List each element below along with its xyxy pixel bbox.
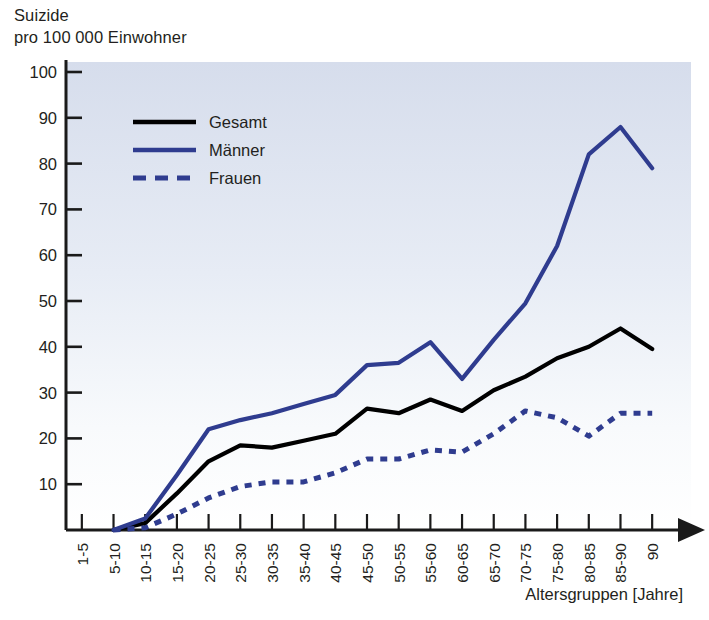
x-tick-label-70-75: 70-75 [517, 543, 534, 583]
y-tick-label-60: 60 [39, 246, 57, 264]
suicide-rate-line-chart: Suizide pro 100 000 Einwohner 1020304050… [0, 0, 709, 620]
x-tick-label-90: 90 [644, 543, 661, 561]
y-tick-label-50: 50 [39, 292, 57, 310]
x-tick-label-80-85: 80-85 [581, 543, 598, 583]
plot-background [66, 62, 691, 530]
x-tick-label-65-70: 65-70 [486, 543, 503, 583]
x-tick-label-15-20: 15-20 [169, 543, 186, 583]
x-tick-label-40-45: 40-45 [327, 543, 344, 583]
y-tick-label-70: 70 [39, 200, 57, 218]
y-tick-label-20: 20 [39, 429, 57, 447]
y-axis-tick-labels: 102030405060708090100 [29, 63, 57, 493]
y-tick-label-30: 30 [39, 384, 57, 402]
x-axis-caption: Altersgruppen [Jahre] [525, 585, 683, 603]
x-tick-label-25-30: 25-30 [232, 543, 249, 583]
legend-label-mnner: Männer [209, 141, 265, 159]
x-tick-label-50-55: 50-55 [391, 543, 408, 583]
x-tick-label-55-60: 55-60 [422, 543, 439, 583]
y-tick-label-10: 10 [39, 475, 57, 493]
legend-label-gesamt: Gesamt [209, 113, 267, 131]
x-tick-label-1-5: 1-5 [74, 543, 91, 565]
y-tick-label-100: 100 [29, 63, 57, 81]
legend-label-frauen: Frauen [209, 169, 261, 187]
x-tick-label-10-15: 10-15 [137, 543, 154, 583]
x-tick-label-85-90: 85-90 [612, 543, 629, 583]
x-tick-label-60-65: 60-65 [454, 543, 471, 583]
y-tick-label-40: 40 [39, 338, 57, 356]
x-tick-label-45-50: 45-50 [359, 543, 376, 583]
x-tick-label-5-10: 5-10 [106, 543, 123, 574]
x-tick-label-20-25: 20-25 [201, 543, 218, 583]
y-tick-label-90: 90 [39, 109, 57, 127]
y-tick-label-80: 80 [39, 155, 57, 173]
x-tick-label-35-40: 35-40 [296, 543, 313, 583]
x-tick-label-30-35: 30-35 [264, 543, 281, 583]
x-tick-label-75-80: 75-80 [549, 543, 566, 583]
x-axis-tick-labels: 1-55-1010-1515-2020-2525-3030-3535-4040-… [74, 543, 661, 583]
plot-svg: 102030405060708090100 1-55-1010-1515-202… [0, 0, 709, 620]
